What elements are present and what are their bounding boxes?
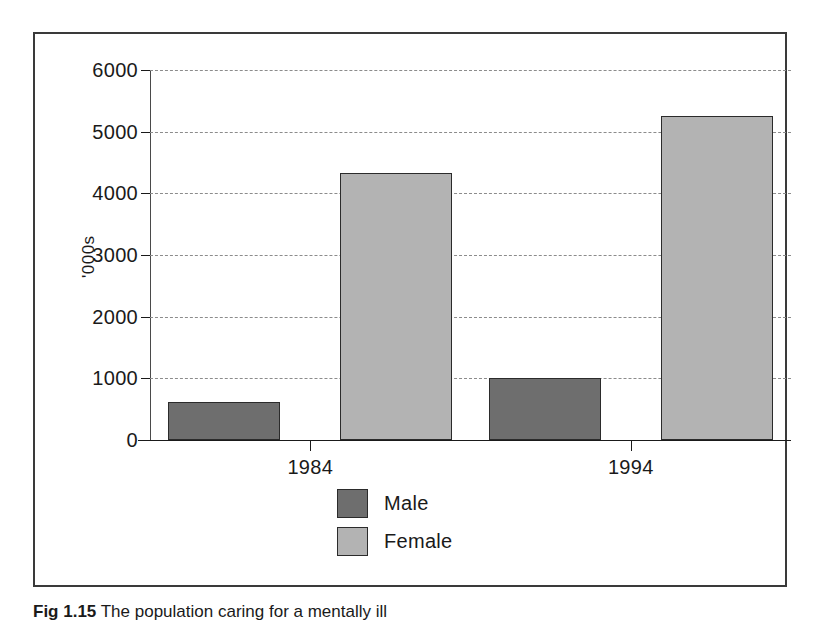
bar-female-1984 xyxy=(340,173,452,440)
bar-male-1984 xyxy=(168,402,280,440)
chart-legend: MaleFemale xyxy=(35,489,789,556)
y-axis-tick-label: 3000 xyxy=(92,244,138,267)
x-axis-tick xyxy=(310,440,311,451)
legend-swatch-male xyxy=(337,489,368,518)
legend-label-male: Male xyxy=(384,492,429,515)
y-axis-tick-label: 0 xyxy=(127,429,138,452)
y-axis-tick-label: 6000 xyxy=(92,59,138,82)
x-axis-line xyxy=(138,440,791,441)
y-axis-tick-label: 2000 xyxy=(92,305,138,328)
legend-swatch-female xyxy=(337,527,368,556)
legend-item-female: Female xyxy=(337,527,487,556)
caption-figure-number: Fig 1.15 xyxy=(33,602,96,621)
x-axis-tick xyxy=(631,440,632,451)
legend-label-female: Female xyxy=(384,530,453,553)
y-axis-tick xyxy=(141,440,150,441)
caption-text: The population caring for a mentally ill xyxy=(101,602,387,621)
bar-male-1994 xyxy=(489,378,601,440)
figure-caption: Fig 1.15 The population caring for a men… xyxy=(33,601,803,622)
bar-female-1994 xyxy=(661,116,773,440)
y-axis-tick xyxy=(141,70,150,71)
y-axis-tick xyxy=(141,132,150,133)
x-axis-tick-label: 1994 xyxy=(608,456,654,479)
y-axis-tick xyxy=(141,255,150,256)
y-axis-tick-label: 1000 xyxy=(92,367,138,390)
y-axis-tick xyxy=(141,378,150,379)
legend-item-male: Male xyxy=(337,489,487,518)
figure-frame: '000s 0100020003000400050006000 19841994… xyxy=(33,32,787,587)
gridline xyxy=(150,70,791,71)
y-axis-tick-label: 5000 xyxy=(92,120,138,143)
y-axis-tick xyxy=(141,193,150,194)
plot-area: 0100020003000400050006000 19841994 xyxy=(150,70,791,440)
y-axis-tick-label: 4000 xyxy=(92,182,138,205)
y-axis-tick xyxy=(141,317,150,318)
x-axis-tick-label: 1984 xyxy=(287,456,333,479)
